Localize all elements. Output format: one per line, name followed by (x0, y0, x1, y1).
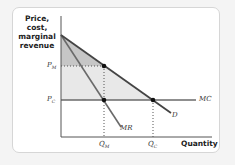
mr-mc-point (102, 98, 107, 103)
y-label-line-3: revenue (14, 41, 60, 50)
mc-label: MC (199, 95, 212, 103)
pm-label: PM (47, 61, 56, 70)
y-axis-label: Price, cost, marginal revenue (14, 14, 60, 50)
shaded-region-lower (61, 66, 153, 100)
qc-label: QC (148, 140, 157, 149)
monopoly-point (102, 64, 107, 69)
qm-label: QM (99, 140, 109, 149)
competitive-point (151, 98, 156, 103)
y-label-line-2: marginal (14, 32, 60, 41)
y-label-line-1: Price, cost, (14, 14, 60, 32)
x-axis-label: Quantity (181, 139, 218, 148)
d-label: D (172, 111, 178, 119)
mr-label: MR (120, 124, 132, 132)
pc-label: PC (47, 95, 55, 104)
